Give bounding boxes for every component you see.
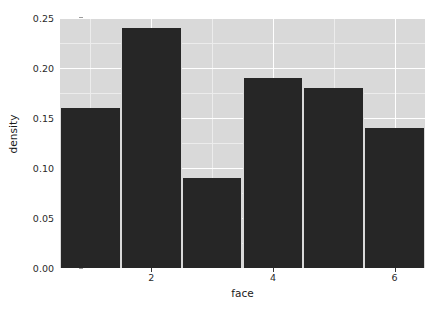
x-axis-tick-label: 4	[270, 272, 276, 283]
bar	[364, 128, 425, 268]
y-axis-tick-label: 0.00	[33, 263, 54, 274]
gridline-minor-horizontal	[60, 43, 425, 44]
x-axis-title: face	[60, 287, 425, 299]
y-axis-title: density	[0, 0, 26, 268]
gridline-major-horizontal	[60, 18, 425, 19]
bar	[60, 108, 121, 268]
y-axis-tick-label: 0.15	[33, 113, 54, 124]
y-axis-tick-labels: 0.000.050.100.150.200.25	[24, 0, 54, 309]
plot-panel	[60, 18, 425, 268]
histogram-chart: density 0.000.050.100.150.200.25 246 fac…	[0, 0, 437, 309]
y-axis-tick-label: 0.10	[33, 163, 54, 174]
bar	[121, 28, 182, 268]
y-axis-tick-label: 0.05	[33, 213, 54, 224]
x-axis-tick-label: 6	[392, 272, 398, 283]
bar	[303, 88, 364, 268]
bar	[182, 178, 243, 268]
gridline-major-horizontal	[60, 68, 425, 69]
x-axis-tick-labels: 246	[60, 272, 425, 286]
y-axis-tick-label: 0.20	[33, 63, 54, 74]
y-axis-tick-label: 0.25	[33, 13, 54, 24]
bar	[243, 78, 304, 268]
y-axis-title-text: density	[7, 114, 19, 153]
x-axis-tick-label: 2	[148, 272, 154, 283]
